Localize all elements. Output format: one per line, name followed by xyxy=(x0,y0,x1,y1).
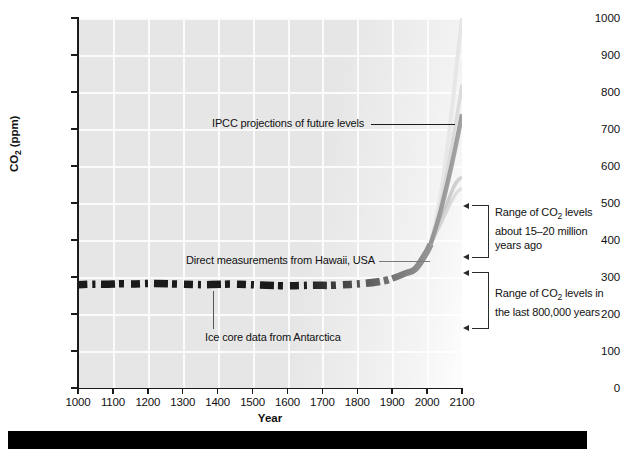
y-tick-mark-400 xyxy=(71,239,78,241)
x-tick-mark-2000 xyxy=(426,388,428,394)
annotation-hawaii-leader-line xyxy=(379,261,430,262)
annotation-hawaii-label: Direct measurements from Hawaii, USA xyxy=(186,254,375,266)
x-tick-mark-1100 xyxy=(112,388,114,394)
x-tick-label-1800: 1800 xyxy=(345,396,370,408)
callout-bracket-15-20-million xyxy=(472,205,489,258)
x-tick-label-1400: 1400 xyxy=(205,396,230,408)
x-tick-label-1100: 1100 xyxy=(101,396,125,408)
y-tick-label-800: 800 xyxy=(558,86,620,98)
callout-line2: about 15–20 million xyxy=(495,225,588,237)
callout-text-last-800000-years: Range of CO2 levels in the last 800,000 … xyxy=(495,286,625,319)
y-tick-mark-500 xyxy=(71,202,78,204)
y-tick-label-1000: 1000 xyxy=(558,12,620,24)
annotation-icecore-label: Ice core data from Antarctica xyxy=(205,331,341,343)
annotation-icecore-leader-line xyxy=(213,291,214,329)
y-axis-title-post: (ppm) xyxy=(8,116,20,151)
y-tick-label-0: 0 xyxy=(558,382,620,394)
callout-line1-pre: Range of CO xyxy=(495,206,558,218)
annotation-ipcc-label: IPCC projections of future levels xyxy=(212,117,364,129)
x-tick-mark-1000 xyxy=(77,388,79,394)
x-tick-label-1500: 1500 xyxy=(240,396,265,408)
arrow-left-icon xyxy=(463,325,469,331)
arrow-left-icon xyxy=(463,203,469,209)
x-tick-label-1700: 1700 xyxy=(310,396,335,408)
x-tick-mark-1700 xyxy=(322,388,324,394)
x-tick-mark-1800 xyxy=(357,388,359,394)
y-tick-label-600: 600 xyxy=(558,160,620,172)
callout2-line1-pre: Range of CO xyxy=(495,287,558,299)
x-tick-label-1600: 1600 xyxy=(275,396,300,408)
y-tick-mark-300 xyxy=(71,276,78,278)
y-tick-mark-1000 xyxy=(71,17,78,19)
y-tick-label-900: 900 xyxy=(558,49,620,61)
bottom-black-bar xyxy=(8,431,587,449)
x-tick-label-1300: 1300 xyxy=(170,396,195,408)
x-tick-label-2000: 2000 xyxy=(415,396,440,408)
y-tick-mark-600 xyxy=(71,165,78,167)
x-axis-title: Year xyxy=(0,412,540,424)
y-tick-label-700: 700 xyxy=(558,123,620,135)
x-tick-mark-1400 xyxy=(217,388,219,394)
arrow-left-icon xyxy=(463,270,469,276)
y-axis-title-pre: CO xyxy=(8,155,20,172)
y-tick-mark-700 xyxy=(71,128,78,130)
y-axis-title: CO2 (ppm) xyxy=(8,116,23,172)
y-axis-title-sub: 2 xyxy=(13,150,23,155)
y-tick-mark-200 xyxy=(71,313,78,315)
callout2-line2: the last 800,000 years xyxy=(495,306,600,318)
annotation-ipcc-leader-line xyxy=(371,124,455,125)
x-tick-label-1200: 1200 xyxy=(135,396,160,408)
x-tick-label-1000: 1000 xyxy=(66,396,91,408)
x-tick-mark-1200 xyxy=(147,388,149,394)
callout2-line1-post: levels in xyxy=(562,287,603,299)
callout-line1-post: levels xyxy=(562,206,592,218)
x-tick-label-1900: 1900 xyxy=(380,396,405,408)
x-axis-line xyxy=(77,388,463,390)
series-path-ice-core-data-from-antarctica xyxy=(78,278,392,285)
x-tick-mark-1600 xyxy=(287,388,289,394)
x-tick-mark-1300 xyxy=(182,388,184,394)
callout-text-15-20-million: Range of CO2 levels about 15–20 million … xyxy=(495,205,625,253)
y-tick-label-300: 300 xyxy=(558,271,620,283)
x-tick-label-2100: 2100 xyxy=(450,396,475,408)
y-tick-mark-100 xyxy=(71,350,78,352)
callout-bracket-last-800000-years xyxy=(472,272,489,329)
y-tick-label-100: 100 xyxy=(558,345,620,357)
x-tick-mark-1900 xyxy=(391,388,393,394)
y-tick-mark-900 xyxy=(71,54,78,56)
x-tick-mark-1500 xyxy=(252,388,254,394)
arrow-left-icon xyxy=(463,254,469,260)
x-tick-mark-2100 xyxy=(461,388,463,394)
y-tick-mark-800 xyxy=(71,91,78,93)
callout-line3: years ago xyxy=(495,239,542,251)
